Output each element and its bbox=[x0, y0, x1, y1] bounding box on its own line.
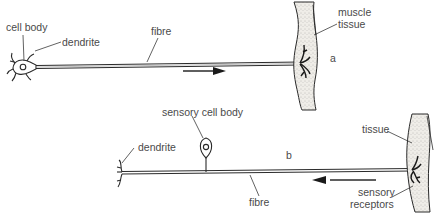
leader-sensory-cell-body bbox=[192, 116, 203, 138]
leader-dendrite bbox=[35, 42, 61, 51]
arrow-right-icon bbox=[183, 67, 226, 75]
leader-fibre-b bbox=[250, 175, 259, 196]
panel-a bbox=[7, 2, 337, 110]
label-dendrite-b: dendrite bbox=[138, 142, 176, 153]
label-muscle-tissue-line2: tissue bbox=[338, 19, 365, 30]
sensory-dendrite-icon bbox=[117, 160, 122, 187]
motor-cell-body-icon bbox=[7, 53, 36, 81]
sensory-fibre bbox=[122, 169, 412, 175]
panel-a-id: a bbox=[330, 53, 336, 64]
muscle-tissue bbox=[294, 2, 318, 110]
label-tissue: tissue bbox=[362, 124, 389, 135]
label-cell-body: cell body bbox=[6, 22, 47, 33]
label-muscle-tissue-line1: muscle bbox=[338, 7, 371, 18]
leader-cell-body bbox=[23, 35, 24, 61]
neuron-diagram: cell body dendrite fibre muscle tissue a… bbox=[0, 0, 435, 214]
leader-muscle-tissue bbox=[314, 24, 337, 35]
panel-b-id: b bbox=[286, 150, 292, 161]
arrow-left-icon bbox=[312, 176, 376, 184]
label-fibre-a: fibre bbox=[151, 26, 171, 37]
sensory-cell-body-icon bbox=[200, 138, 211, 172]
label-fibre-b: fibre bbox=[249, 197, 269, 208]
label-sensory-receptors-line2: receptors bbox=[350, 199, 394, 210]
label-sensory-cell-body: sensory cell body bbox=[162, 107, 243, 118]
leader-fibre-a bbox=[147, 38, 158, 62]
label-sensory-receptors-line1: sensory bbox=[358, 187, 395, 198]
leader-dendrite-b bbox=[122, 148, 134, 163]
label-dendrite-a: dendrite bbox=[62, 37, 100, 48]
sensory-tissue bbox=[407, 114, 433, 212]
motor-fibre bbox=[36, 62, 300, 69]
